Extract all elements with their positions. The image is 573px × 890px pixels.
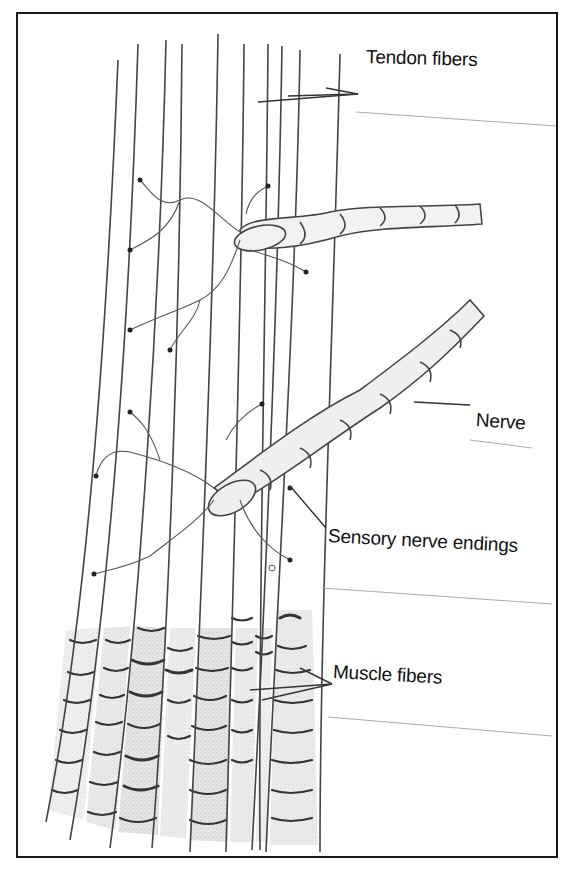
lower-nerve-bundle bbox=[202, 300, 484, 523]
upper-nerve-bundle bbox=[232, 204, 482, 255]
label-nerve: Nerve bbox=[475, 409, 526, 434]
tendon-organ-illustration bbox=[0, 0, 573, 890]
label-tendon-fibers: Tendon fibers bbox=[366, 46, 478, 71]
